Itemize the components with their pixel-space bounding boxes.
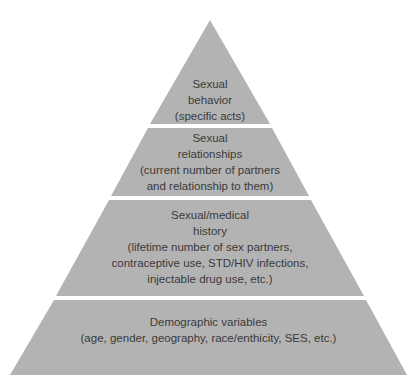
label-line: (age, gender, geography, race/enthicity,…: [10, 330, 407, 346]
level-label-demographics: Demographic variables (age, gender, geog…: [10, 314, 407, 346]
label-line: Sexual: [150, 76, 270, 92]
label-line: contraceptive use, STD/HIV infections,: [60, 255, 360, 271]
level-label-behavior: Sexual behavior (specific acts): [150, 76, 270, 124]
label-line: injectable drug use, etc.): [60, 271, 360, 287]
label-line: Sexual/medical: [60, 207, 360, 223]
level-label-relationships: Sexual relationships (current number of …: [110, 130, 310, 194]
label-line: (specific acts): [150, 108, 270, 124]
label-line: behavior: [150, 92, 270, 108]
label-line: (lifetime number of sex partners,: [60, 239, 360, 255]
label-line: Sexual: [110, 130, 310, 146]
label-line: history: [60, 223, 360, 239]
label-line: relationships: [110, 146, 310, 162]
label-line: Demographic variables: [10, 314, 407, 330]
label-line: (current number of partners: [110, 162, 310, 178]
label-line: and relationship to them): [110, 178, 310, 194]
level-label-history: Sexual/medical history (lifetime number …: [60, 207, 360, 287]
